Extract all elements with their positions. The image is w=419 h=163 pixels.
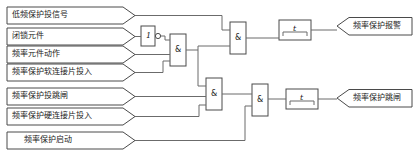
input-label-in6: 频率保护硬连接片投入: [12, 112, 92, 120]
timer-block-symbol-timer2: t: [300, 93, 303, 102]
output-label-out1: 频率保护报警: [353, 22, 401, 30]
not-gate-symbol-not1: 1: [146, 31, 151, 40]
input-label-in7: 频率保护启动: [24, 136, 72, 144]
logic-diagram-canvas: 低频保护投信号 闭锁元件 频率元件动作 频率保护软连接片投入 频率保护投跳闸 频…: [0, 0, 419, 163]
not-gate-bubble-not1: [155, 33, 160, 38]
output-label-out2: 频率保护跳闸: [353, 94, 401, 102]
wire-not1-to-and1: [161, 36, 170, 40]
wire-in6-to-and3: [135, 105, 206, 117]
input-label-in2: 闭锁元件: [12, 32, 44, 40]
and-gate-symbol-and1: &: [175, 45, 181, 54]
wire-and1-to-and2: [198, 46, 230, 50]
timer-block-symbol-timer1: t: [293, 24, 296, 33]
wire-in7-to-and4: [135, 106, 252, 141]
input-label-in4: 频率保护软连接片投入: [12, 68, 92, 76]
input-label-in5: 频率保护投跳闸: [12, 92, 68, 100]
wire-in4-to-and1: [135, 61, 170, 73]
and-gate-symbol-and2: &: [235, 33, 241, 42]
wire-and1-to-and3: [198, 50, 206, 86]
input-label-in1: 低频保护投信号: [12, 11, 68, 19]
input-label-in3: 频率元件动作: [12, 50, 60, 58]
and-gate-symbol-and4: &: [257, 95, 263, 104]
and-gate-symbol-and3: &: [211, 89, 217, 98]
